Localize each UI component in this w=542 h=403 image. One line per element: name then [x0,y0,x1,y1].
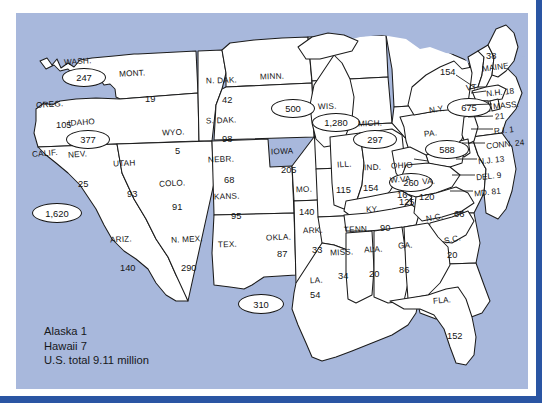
legend-line-total: U.S. total 9.11 million [44,353,149,368]
label-iowa-name: IOWA [271,147,294,157]
map-panel: WASH. 247 OREG. 105 CALIF. 1,620 IDAHO 3… [16,13,528,389]
label-louisiana-value: 54 [310,290,320,300]
label-northcarolina-value: 66 [454,209,464,219]
label-mississippi-value: 34 [338,271,348,281]
label-westvirginia-value: 16 [397,190,407,200]
label-massachusetts-value: 21 [495,111,505,122]
label-utah-value: 93 [127,189,137,199]
label-nebraska-value: 68 [224,175,234,185]
label-nevada-value: 25 [78,179,88,189]
label-kansas-name: KANS. [214,192,240,202]
label-virginia-value: 120 [419,192,435,202]
label-michigan-value: 297 [353,130,397,149]
label-wyoming-value: 5 [175,146,180,156]
label-wyoming-name: WYO. [162,127,185,137]
label-colorado-value: 91 [172,202,182,212]
label-maine-name: MAINE [482,61,510,74]
label-florida-value: 152 [447,331,463,341]
label-vermont-value: 154 [440,67,456,77]
label-georgia-name: GA. [398,241,413,251]
label-maryland: MD. 81 [474,186,502,199]
label-minnesota-name: MINN. [260,72,285,82]
label-texas-name: TEX. [218,240,237,250]
label-rhodeisland: R.I. 1 [494,124,515,136]
label-vermont-name: VT. [466,82,479,92]
label-oregon-name: OREG. [36,99,64,110]
label-idaho-name: IDAHO [68,117,95,128]
label-minnesota-value: 500 [271,99,315,118]
bottom-border-accent [0,396,542,403]
label-oklahoma-name: OKLA. [266,233,291,243]
label-illinois-name: ILL. [337,160,352,170]
label-louisiana-name: LA. [310,276,323,285]
label-delaware: DEL. 9 [476,170,502,183]
label-pennsylvania-name: PA. [424,128,438,138]
label-missouri-name: MO. [296,185,312,195]
label-nebraska-name: NEBR. [208,155,234,165]
label-missouri-value: 140 [299,207,315,217]
label-montana-value: 19 [145,94,155,104]
label-pennsylvania-value: 588 [425,140,469,159]
label-connecticut: CONN. 24 [486,137,525,151]
label-washington-value: 247 [62,68,106,87]
label-wisconsin-value: 1,280 [312,113,360,132]
label-michigan-name: MICH. [358,119,383,129]
label-newjersey: N.J. 13 [478,154,505,167]
label-southdakota-value: 98 [222,134,232,144]
label-northdakota-value: 42 [222,95,232,105]
label-mississippi-name: MISS. [330,247,354,257]
label-southdakota-name: S. DAK. [206,115,237,125]
label-nevada-name: NEV. [68,149,88,159]
label-utah-name: UTAH [113,158,136,168]
label-arizona-value: 140 [120,263,136,273]
label-arkansas-value: 33 [312,245,322,255]
label-california-name: CALIF. [32,148,58,159]
label-southcarolina-value: 20 [447,250,457,260]
label-newhampshire: N.H. 18 [486,86,515,99]
label-illinois-value: 115 [336,185,351,195]
label-wisconsin-name: WIS. [318,102,337,112]
label-oklahoma-value: 87 [277,249,287,259]
label-maine-value: 38 [486,51,496,61]
label-indiana-value: 154 [363,183,379,193]
label-indiana-name: IND. [364,163,381,173]
label-california-value: 1,620 [32,203,82,223]
label-colorado-name: COLO. [159,178,186,188]
label-arkansas-name: ARK. [303,226,323,236]
label-southcarolina-name: S.C. [443,233,461,245]
label-washington-name: WASH. [64,56,92,67]
label-kansas-value: 95 [231,211,241,221]
label-northcarolina-name: N.C. [425,212,443,224]
label-newmexico-name: N. MEX. [171,234,203,245]
label-tennessee-name: TENN. [344,225,370,235]
label-newyork-name: N.Y. [428,104,445,115]
label-florida-name: FLA. [433,295,452,306]
label-massachusetts-name: MASS. [493,99,520,112]
label-newyork-value: 675 [447,98,491,117]
label-iowa-value: 205 [281,165,297,175]
label-arizona-name: ARIZ. [110,234,132,244]
label-northdakota-name: N. DAK. [206,75,237,85]
label-tennessee-value: 90 [380,223,390,233]
right-border-accent [536,0,542,403]
label-montana-name: MONT. [119,68,146,78]
label-alabama-name: ALA. [364,245,383,255]
legend-line-hawaii: Hawaii 7 [44,339,149,354]
legend: Alaska 1 Hawaii 7 U.S. total 9.11 millio… [44,324,149,368]
map-canvas: WASH. 247 OREG. 105 CALIF. 1,620 IDAHO 3… [16,13,528,389]
label-georgia-value: 86 [399,265,409,275]
legend-line-alaska: Alaska 1 [44,324,149,339]
label-virginia-name: VA. [422,177,436,187]
label-ohio-name: OHIO [391,161,413,171]
label-texas-value: 310 [238,294,284,314]
label-alabama-value: 20 [369,269,379,279]
label-kentucky-name: KY. [366,205,379,215]
label-newmexico-value: 290 [181,263,197,273]
label-idaho-value: 377 [66,130,110,149]
screenshot-frame: WASH. 247 OREG. 105 CALIF. 1,620 IDAHO 3… [0,0,542,403]
